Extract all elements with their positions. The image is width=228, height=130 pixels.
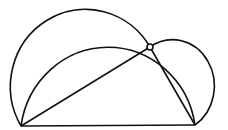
outer-arc [10, 9, 150, 126]
inner-arc [21, 47, 195, 126]
segment-ab [21, 125, 195, 126]
segment-pb [150, 47, 195, 125]
segment-ap [21, 47, 150, 126]
geometry-diagram [0, 0, 228, 130]
point-marker [147, 44, 153, 50]
right-circle [150, 40, 214, 125]
